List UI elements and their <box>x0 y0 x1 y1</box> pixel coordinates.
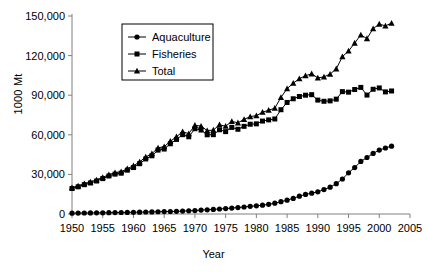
series-aquaculture <box>69 144 394 216</box>
data-point <box>205 207 210 212</box>
data-point <box>377 85 382 90</box>
data-point <box>389 144 394 149</box>
data-point <box>254 203 259 208</box>
data-point <box>211 132 216 137</box>
data-point <box>340 176 345 181</box>
data-point <box>364 35 370 41</box>
data-point <box>192 122 198 128</box>
data-point <box>162 209 167 214</box>
data-point <box>346 170 351 175</box>
data-point <box>297 194 302 199</box>
data-point <box>297 94 302 99</box>
data-point <box>358 32 364 38</box>
data-point <box>364 93 369 98</box>
data-point <box>216 122 222 128</box>
data-point <box>290 80 296 86</box>
data-point <box>334 97 339 102</box>
data-point <box>272 201 277 206</box>
data-point <box>315 98 320 103</box>
data-point <box>125 210 130 215</box>
data-point <box>389 88 394 93</box>
data-point <box>119 210 124 215</box>
data-point <box>388 20 394 26</box>
data-point <box>260 119 265 124</box>
legend-label-total: Total <box>152 65 175 77</box>
data-point <box>217 127 222 132</box>
data-point <box>377 148 382 153</box>
y-tick-label: 120,000 <box>25 50 65 62</box>
series-fisheries <box>70 85 395 191</box>
data-point <box>371 87 376 92</box>
data-point <box>321 99 326 104</box>
data-point <box>272 105 278 111</box>
y-tick-label: 150,000 <box>25 10 65 22</box>
data-point <box>358 159 363 164</box>
data-point <box>235 205 240 210</box>
series-total <box>69 20 395 190</box>
data-point <box>180 208 185 213</box>
data-point <box>376 21 382 27</box>
data-point <box>272 116 277 121</box>
y-tick-label: 90,000 <box>31 89 65 101</box>
data-point <box>192 208 197 213</box>
data-point <box>303 93 308 98</box>
data-point <box>180 129 186 135</box>
data-point <box>309 71 315 77</box>
data-point <box>383 145 388 150</box>
data-point <box>266 117 271 122</box>
x-tick-label: 1970 <box>183 222 207 234</box>
data-point <box>229 118 235 124</box>
x-tick-label: 1950 <box>60 222 84 234</box>
x-tick-label: 2005 <box>398 222 422 234</box>
data-point <box>291 196 296 201</box>
legend-label-aquaculture: Aquaculture <box>152 31 211 43</box>
data-point <box>333 66 339 72</box>
data-point <box>371 151 376 156</box>
data-point <box>266 202 271 207</box>
data-point <box>370 25 376 31</box>
y-tick-label: 0 <box>59 208 65 220</box>
line-chart-plot: 030,00060,00090,000120,000150,0001950195… <box>0 0 427 272</box>
data-point <box>328 98 333 103</box>
data-point <box>278 199 283 204</box>
data-point <box>278 107 283 112</box>
data-point <box>174 209 179 214</box>
y-tick-label: 60,000 <box>31 129 65 141</box>
data-point <box>100 210 105 215</box>
chart-container: 030,00060,00090,000120,000150,0001950195… <box>0 0 427 272</box>
data-point <box>321 74 327 80</box>
x-tick-label: 1975 <box>213 222 237 234</box>
data-point <box>352 165 357 170</box>
data-point <box>260 203 265 208</box>
data-point <box>131 210 136 215</box>
x-tick-label: 1965 <box>152 222 176 234</box>
data-point <box>321 187 326 192</box>
data-point <box>284 198 289 203</box>
y-axis-title: 1000 Mt <box>12 58 24 130</box>
series-line <box>72 23 392 188</box>
data-point <box>217 206 222 211</box>
chart-legend: AquacultureFisheriesTotal <box>122 24 213 80</box>
data-point <box>315 189 320 194</box>
data-point <box>235 127 240 132</box>
x-tick-label: 1985 <box>275 222 299 234</box>
data-point <box>229 125 234 130</box>
data-point <box>296 76 302 82</box>
data-point <box>383 89 388 94</box>
data-point <box>229 205 234 210</box>
data-point <box>358 85 363 90</box>
data-point <box>149 209 154 214</box>
data-point <box>198 207 203 212</box>
data-point <box>303 192 308 197</box>
data-point <box>352 87 357 92</box>
legend-marker-fisheries <box>135 52 140 57</box>
data-point <box>168 209 173 214</box>
data-point <box>76 210 81 215</box>
data-point <box>334 181 339 186</box>
y-tick-label: 30,000 <box>31 168 65 180</box>
data-point <box>242 124 247 129</box>
x-axis-title: Year <box>0 248 427 260</box>
legend-marker-aquaculture <box>134 34 139 39</box>
data-point <box>223 129 228 134</box>
data-point <box>309 92 314 97</box>
